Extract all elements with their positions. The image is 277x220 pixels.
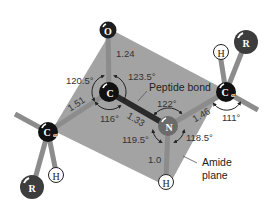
svg-text:α: α [53,131,57,139]
svg-text:R: R [28,183,36,194]
amide-plane-label-2: plane [202,169,228,181]
atom-r-right: R [234,30,258,54]
atom-r-left: R [20,175,44,199]
atom-alpha-carbon-right: C α [216,82,236,102]
angle-119-5: 119.5° [122,134,149,145]
atom-oxygen: O [100,22,117,39]
arc-111 [214,103,240,110]
svg-text:C: C [106,88,113,99]
angle-118-5: 118.5° [186,132,213,143]
atom-nitrogen: N [158,116,178,136]
angle-116: 116° [100,113,119,124]
atom-hydrogen-right: H [214,45,229,60]
atom-hydrogen-amide: H [159,175,174,190]
atom-alpha-carbon-left: C α [38,122,58,142]
length-c-o: 1.24 [116,48,135,59]
angle-122: 122° [157,98,177,109]
svg-text:C: C [43,127,50,138]
peptide-diagram: O C N C α C α R R H H [0,0,277,220]
svg-text:H: H [162,178,169,189]
svg-text:R: R [242,38,250,49]
angle-111: 111° [222,112,240,123]
amide-plane-leader [183,156,197,163]
svg-text:H: H [52,171,59,182]
length-n-h: 1.0 [148,154,161,165]
svg-text:O: O [104,26,112,37]
svg-text:C: C [221,87,228,98]
peptide-bond-label: Peptide bond [149,81,211,93]
amide-plane-label-1: Amide [202,156,232,168]
svg-text:H: H [217,48,224,59]
angle-120-5: 120.5° [66,75,94,86]
svg-text:N: N [165,122,173,133]
svg-text:α: α [231,91,235,99]
atom-carbonyl-carbon: C [99,82,119,102]
atom-hydrogen-left: H [49,168,64,183]
